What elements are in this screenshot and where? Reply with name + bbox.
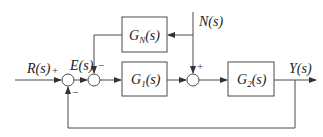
output-signal: Y(s) xyxy=(274,61,316,80)
sum2-minus-sign: − xyxy=(98,59,104,71)
svg-text:GN(s): GN(s) xyxy=(129,28,160,45)
label-r: R(s) xyxy=(26,61,51,77)
disturbance-signal: N(s) + xyxy=(168,12,223,73)
block-g2: G2(s) xyxy=(228,62,274,96)
summing-junction-1 xyxy=(62,74,74,86)
svg-text:G2(s): G2(s) xyxy=(237,72,267,89)
label-e: E(s) xyxy=(69,58,94,74)
sum1-plus-sign: + xyxy=(52,64,58,76)
block-diagram: R(s) + − E(s) − G1(s) GN(s) N(s) + G2(s) xyxy=(0,0,323,137)
block-gn: GN(s) xyxy=(122,17,167,52)
summing-junction-3 xyxy=(187,74,199,86)
sum1-minus-sign: − xyxy=(72,86,78,98)
label-n: N(s) xyxy=(198,14,223,30)
input-signal: R(s) + xyxy=(15,61,61,80)
summing-junction-2 xyxy=(88,74,100,86)
label-y: Y(s) xyxy=(289,61,312,77)
svg-text:G1(s): G1(s) xyxy=(131,72,161,89)
sum3-plus-sign: + xyxy=(197,60,203,72)
block-g1: G1(s) xyxy=(122,62,167,96)
